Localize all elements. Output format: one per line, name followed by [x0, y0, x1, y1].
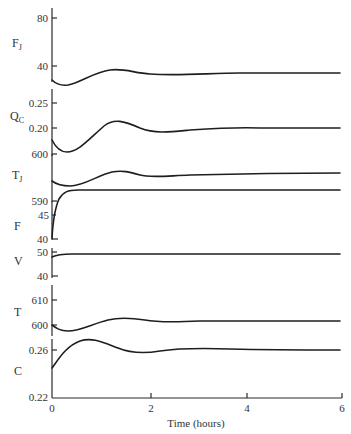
f-tick-label-45: 45: [38, 209, 50, 221]
panel-v: 50 40 V: [14, 246, 340, 282]
t-curve: [52, 318, 340, 331]
qc-curve: [52, 121, 340, 152]
fj-tick-label-40: 40: [37, 60, 49, 72]
panel-c: 0.26 0.22 C: [14, 339, 340, 403]
panel-qc: 0.25 0.20 QC: [10, 89, 340, 156]
panel-t: 610 600 T: [14, 285, 340, 336]
f-curve: [52, 190, 340, 238]
fj-curve: [52, 70, 340, 86]
t-axis-label: T: [14, 305, 22, 319]
x-tick-label-4: 4: [244, 402, 250, 414]
v-axis-label: V: [14, 254, 23, 268]
tj-tick-label-590: 590: [32, 195, 49, 207]
qc-axis-label: QC: [10, 109, 24, 125]
stacked-time-response-chart: 80 40 FJ 0.25 0.20 QC 600 590 TJ 45 40 F: [0, 0, 351, 434]
t-tick-label-610: 610: [32, 294, 49, 306]
panel-f: 45 40 F: [14, 190, 340, 245]
tj-axis-label: TJ: [12, 168, 22, 184]
v-tick-label-50: 50: [37, 246, 49, 258]
tj-curve: [52, 171, 340, 186]
c-tick-label-022: 0.22: [29, 391, 48, 403]
t-tick-label-600: 600: [32, 319, 49, 331]
qc-tick-label-020: 0.20: [29, 122, 49, 134]
x-tick-label-2: 2: [148, 402, 154, 414]
x-tick-label-6: 6: [339, 402, 345, 414]
v-tick-label-40: 40: [37, 270, 49, 282]
panel-fj: 80 40 FJ: [12, 8, 340, 85]
f-tick-label-40: 40: [37, 233, 49, 245]
x-axis-title: Time (hours): [167, 417, 225, 430]
c-curve: [52, 340, 340, 368]
f-axis-label: F: [14, 219, 21, 233]
tj-tick-label-600: 600: [32, 148, 49, 160]
fj-axis-label: FJ: [12, 36, 22, 52]
x-axis: 0 2 4 6 Time (hours): [49, 393, 345, 430]
c-axis-label: C: [14, 364, 22, 378]
v-curve: [52, 254, 340, 257]
fj-tick-label-80: 80: [37, 12, 49, 24]
qc-tick-label-025: 0.25: [29, 97, 49, 109]
c-tick-label-026: 0.26: [29, 344, 49, 356]
x-tick-label-0: 0: [49, 402, 55, 414]
panel-tj: 600 590 TJ: [12, 148, 340, 207]
